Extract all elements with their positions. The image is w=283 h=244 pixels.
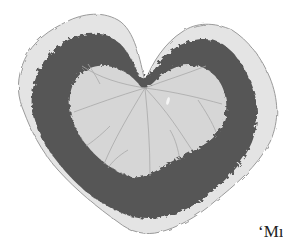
caption-text: ‘Mı <box>258 222 283 242</box>
leaf-icon <box>0 0 283 244</box>
leaf-illustration <box>0 0 283 244</box>
